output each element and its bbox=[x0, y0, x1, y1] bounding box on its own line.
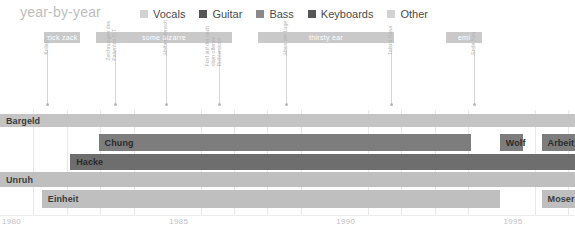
release-marker-line bbox=[474, 50, 475, 105]
era-band-label: zick zack bbox=[46, 34, 77, 41]
timeline-bar-label: Bargeld bbox=[0, 116, 40, 126]
legend-item-keyboards[interactable]: Keyboards bbox=[308, 8, 374, 20]
timeline-bar-label: Wolf bbox=[500, 138, 526, 148]
legend-swatch-icon bbox=[256, 10, 264, 18]
release-marker-dot[interactable] bbox=[218, 103, 221, 106]
timeline-row-unruh: Unruh bbox=[0, 172, 575, 187]
release-marker-label: Ende Neu bbox=[471, 9, 477, 55]
legend-swatch-icon bbox=[199, 10, 207, 18]
timeline-bar-label: Einheit bbox=[42, 194, 79, 204]
legend-swatch-icon bbox=[140, 10, 148, 18]
release-marker-label: Halber Mensch bbox=[163, 9, 169, 55]
axis-tick-label: 1980 bbox=[2, 217, 21, 226]
timeline-bar-moser[interactable]: Moser bbox=[542, 190, 575, 208]
timeline-bar-unruh[interactable]: Unruh bbox=[0, 172, 575, 187]
release-marker-line bbox=[47, 50, 48, 105]
timeline-row-chung: ChungWolfArbeit bbox=[0, 134, 575, 151]
timeline-bar-label: Hacke bbox=[70, 157, 103, 167]
axis-tick-label: 1995 bbox=[503, 217, 522, 226]
timeline-bar-label: Chung bbox=[99, 138, 134, 148]
release-marker-label: Tabula Rasa bbox=[388, 9, 394, 55]
release-marker-dot[interactable] bbox=[473, 103, 476, 106]
timeline-bar-einheit[interactable]: Einheit bbox=[42, 190, 500, 208]
x-axis: 1980198519901995 bbox=[0, 215, 575, 239]
release-marker-dot[interactable] bbox=[165, 103, 168, 106]
release-marker-label: Kollaps bbox=[44, 9, 50, 55]
legend-item-guitar[interactable]: Guitar bbox=[199, 8, 242, 20]
release-marker-dot[interactable] bbox=[390, 103, 393, 106]
timeline-row-einheit: EinheitMoser bbox=[0, 190, 575, 208]
axis-baseline bbox=[0, 215, 575, 216]
legend-item-label: Bass bbox=[269, 8, 293, 20]
release-marker-line bbox=[286, 50, 287, 105]
axis-tick-label: 1985 bbox=[169, 217, 188, 226]
legend-item-label: Vocals bbox=[153, 8, 185, 20]
year-by-year-timeline-chart: year-by-year VocalsGuitarBassKeyboardsOt… bbox=[0, 0, 575, 239]
release-marker-dot[interactable] bbox=[114, 103, 117, 106]
timeline-bar-chung[interactable]: Chung bbox=[99, 134, 472, 151]
timeline-bar-hacke[interactable]: Hacke bbox=[70, 154, 575, 170]
release-marker-line bbox=[166, 50, 167, 105]
era-band-label: thirsty ear bbox=[309, 34, 343, 41]
page-title: year-by-year bbox=[20, 4, 101, 20]
timeline-bar-bargeld[interactable]: Bargeld bbox=[0, 114, 575, 127]
timeline-bar-label: Unruh bbox=[0, 175, 33, 185]
era-band-thirsty-ear[interactable]: thirsty ear bbox=[258, 32, 394, 43]
release-marker-label: Fünf auf der nach oben offenen Richtersk… bbox=[204, 20, 221, 66]
release-marker-label: Zeichnungen des Patienten O.T. bbox=[106, 15, 118, 61]
timeline-bar-arbeit[interactable]: Arbeit bbox=[542, 134, 575, 151]
timeline-bar-label: Moser bbox=[542, 194, 575, 204]
axis-tick-label: 1990 bbox=[336, 217, 355, 226]
release-marker-line bbox=[391, 50, 392, 105]
release-marker-dot[interactable] bbox=[46, 103, 49, 106]
legend-item-label: Other bbox=[400, 8, 428, 20]
release-marker-dot[interactable] bbox=[285, 103, 288, 106]
legend-item-label: Guitar bbox=[212, 8, 242, 20]
plot-area: BargeldChungWolfArbeitHackeUnruhEinheitM… bbox=[0, 110, 575, 215]
era-band-label: emi bbox=[458, 34, 470, 41]
legend-item-label: Keyboards bbox=[321, 8, 374, 20]
timeline-row-bargeld: Bargeld bbox=[0, 114, 575, 127]
release-marker-label: Haus der Lüge bbox=[283, 9, 289, 55]
timeline-row-hacke: Hacke bbox=[0, 154, 575, 170]
timeline-bar-label: Arbeit bbox=[542, 138, 575, 148]
timeline-bar-wolf[interactable]: Wolf bbox=[500, 134, 523, 151]
legend-swatch-icon bbox=[308, 10, 316, 18]
